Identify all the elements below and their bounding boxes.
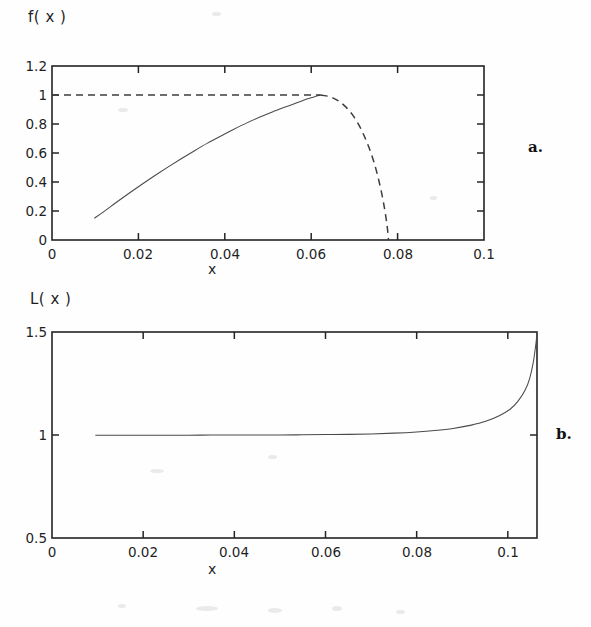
figure-panel-a: f( x ) a. x 1.2 1 0.8 0.6 0.4 0.2 0 0 0.… — [0, 0, 591, 285]
panel-b-plot-area — [0, 285, 591, 627]
scan-artifact — [212, 12, 221, 16]
scan-artifact — [196, 606, 218, 611]
scan-artifact — [268, 608, 282, 613]
scan-artifact — [430, 196, 437, 200]
data-curve — [321, 95, 389, 240]
panel-a-curves — [52, 95, 389, 240]
figure-page: f( x ) a. x 1.2 1 0.8 0.6 0.4 0.2 0 0 0.… — [0, 0, 591, 627]
panel-a-frame — [52, 66, 484, 240]
data-curve — [94, 95, 320, 218]
scan-artifact — [118, 604, 126, 608]
scan-artifact — [118, 108, 128, 112]
panel-a-ticks — [52, 66, 484, 240]
scan-artifact — [396, 610, 405, 614]
panel-a-plot-area — [0, 0, 591, 285]
scan-artifact — [150, 469, 164, 473]
panel-b-curves — [95, 332, 537, 435]
figure-panel-b: L( x ) b. x 1.5 1 0.5 0 0.02 0.04 0.06 0… — [0, 285, 591, 627]
data-curve — [95, 332, 537, 435]
scan-artifact — [332, 606, 342, 611]
scan-artifact — [268, 455, 277, 459]
